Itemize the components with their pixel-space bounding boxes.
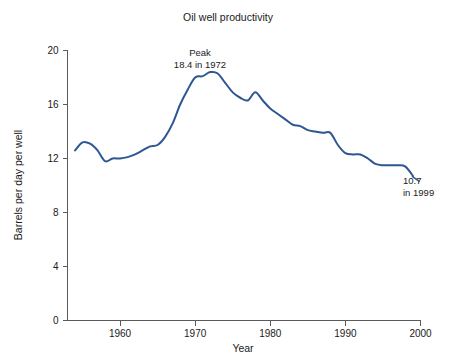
- y-tick-label: 4: [53, 261, 59, 272]
- y-tick-label: 20: [47, 45, 59, 56]
- end-annotation-line-2: in 1999: [403, 187, 434, 198]
- annotations: Peak 18.4 in 1972 10.7 in 1999: [174, 47, 434, 198]
- line-chart: 048121620 19601970198019902000 Peak 18.4…: [0, 0, 456, 363]
- chart-container: 048121620 19601970198019902000 Peak 18.4…: [0, 0, 456, 363]
- y-tick-label: 12: [47, 153, 59, 164]
- x-tick-label: 2000: [409, 328, 432, 339]
- y-tick-label: 8: [53, 207, 59, 218]
- x-tick-label: 1970: [184, 328, 207, 339]
- y-tick-label: 0: [53, 315, 59, 326]
- x-tick-label: 1980: [259, 328, 282, 339]
- y-tick-label: 16: [47, 99, 59, 110]
- x-tick-label: 1990: [334, 328, 357, 339]
- series-line-barrels-per-day-per-well: [75, 72, 413, 176]
- x-tick-label: 1960: [109, 328, 132, 339]
- chart-title: Oil well productivity: [183, 11, 274, 23]
- x-axis-title: Year: [232, 342, 254, 354]
- y-axis-title: Barrels per day per well: [12, 130, 24, 240]
- axes: 048121620 19601970198019902000: [47, 45, 432, 338]
- data-series-group: [75, 72, 419, 181]
- peak-annotation-line-1: Peak: [189, 47, 211, 58]
- end-annotation-line-1: 10.7: [403, 175, 422, 186]
- peak-annotation-line-2: 18.4 in 1972: [174, 59, 226, 70]
- x-axis-ticks: 19601970198019902000: [109, 321, 432, 339]
- y-axis-ticks: 048121620: [47, 45, 67, 326]
